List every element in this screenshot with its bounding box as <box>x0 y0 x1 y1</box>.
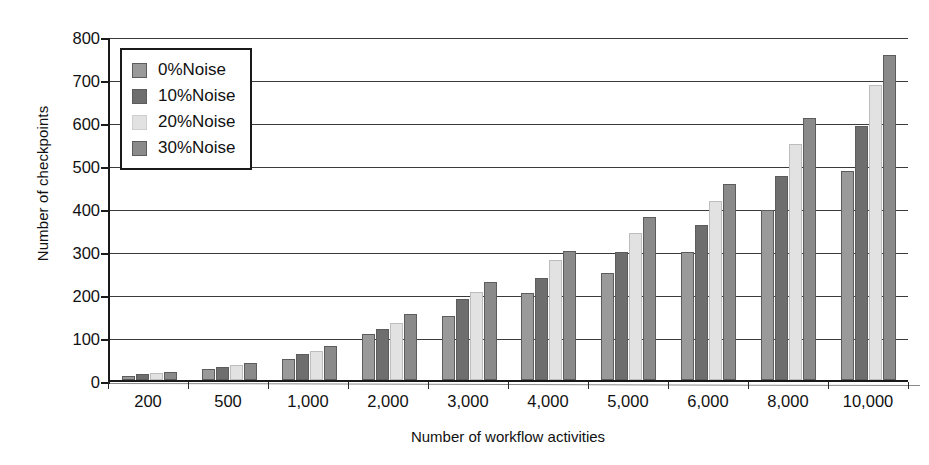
x-tick-label: 10,000 <box>828 392 908 411</box>
x-tick-mark <box>828 382 829 389</box>
legend-swatch-icon <box>132 115 147 130</box>
bar <box>376 329 389 380</box>
bar <box>164 372 177 380</box>
y-tick-label: 400 <box>72 201 100 220</box>
y-tick-mark <box>101 253 110 255</box>
x-tick-label: 8,000 <box>748 392 828 411</box>
x-tick-mark <box>908 382 909 389</box>
y-tick-label: 300 <box>72 244 100 263</box>
bar <box>629 233 642 380</box>
bar <box>723 184 736 380</box>
bar <box>549 260 562 380</box>
bar-group <box>669 38 749 380</box>
y-tick-label: 600 <box>72 115 100 134</box>
bar <box>404 314 417 380</box>
x-tick-mark <box>748 382 749 389</box>
bar <box>761 210 774 380</box>
x-axis-tick-labels: 2005001,0002,0003,0004,0005,0006,0008,00… <box>108 392 908 411</box>
legend-label: 0%Noise <box>158 60 226 80</box>
y-tick-mark <box>101 167 110 169</box>
y-tick-label: 800 <box>72 29 100 48</box>
bar <box>442 316 455 381</box>
x-tick-label: 6,000 <box>668 392 748 411</box>
bar <box>282 359 295 381</box>
x-tick-mark <box>188 382 189 389</box>
y-tick-mark <box>101 296 110 298</box>
bar <box>563 251 576 380</box>
y-axis-tick-labels: 0100200300400500600700800 <box>40 38 100 382</box>
y-tick-label: 700 <box>72 72 100 91</box>
y-tick-mark <box>101 38 110 40</box>
bar <box>230 365 243 380</box>
bar <box>601 273 614 381</box>
x-tick-mark <box>588 382 589 389</box>
y-tick-label: 100 <box>72 330 100 349</box>
bar <box>643 217 656 380</box>
bar <box>202 369 215 380</box>
legend: 0%Noise10%Noise20%Noise30%Noise <box>120 48 252 170</box>
legend-item[interactable]: 20%Noise <box>132 109 236 135</box>
bar <box>324 346 337 380</box>
bar-group <box>429 38 509 380</box>
bar <box>296 354 309 380</box>
y-tick-mark <box>101 210 110 212</box>
bar <box>695 225 708 380</box>
x-axis-ticks <box>108 382 908 390</box>
bar <box>216 367 229 380</box>
y-tick-mark <box>101 124 110 126</box>
bar-group <box>509 38 589 380</box>
bar <box>803 118 816 380</box>
bar <box>362 334 375 380</box>
bar <box>456 299 469 380</box>
bar <box>521 293 534 380</box>
bar <box>150 373 163 380</box>
bar <box>869 85 882 380</box>
x-tick-label: 500 <box>188 392 268 411</box>
y-tick-label: 500 <box>72 158 100 177</box>
x-tick-label: 3,000 <box>428 392 508 411</box>
y-tick-label: 200 <box>72 287 100 306</box>
x-tick-mark <box>428 382 429 389</box>
bar <box>390 323 403 380</box>
legend-item[interactable]: 30%Noise <box>132 135 236 161</box>
bar <box>535 278 548 380</box>
bar-group <box>349 38 429 380</box>
x-tick-mark <box>668 382 669 389</box>
legend-label: 20%Noise <box>158 112 236 132</box>
x-tick-label: 5,000 <box>588 392 668 411</box>
legend-label: 30%Noise <box>158 138 236 158</box>
x-tick-mark <box>268 382 269 389</box>
x-tick-label: 1,000 <box>268 392 348 411</box>
bar <box>484 282 497 380</box>
bar <box>681 252 694 380</box>
bar-group <box>748 38 828 380</box>
chart-figure: Number of checkpoints 010020030040050060… <box>0 0 929 465</box>
bar <box>883 55 896 380</box>
legend-label: 10%Noise <box>158 86 236 106</box>
legend-swatch-icon <box>132 63 147 78</box>
y-tick-label: 0 <box>91 373 100 392</box>
legend-item[interactable]: 0%Noise <box>132 57 236 83</box>
x-axis-title: Number of workflow activities <box>108 428 908 445</box>
bar <box>709 201 722 380</box>
bar <box>855 126 868 380</box>
bar <box>789 144 802 381</box>
y-tick-mark <box>101 339 110 341</box>
x-tick-label: 2,000 <box>348 392 428 411</box>
bar <box>775 176 788 380</box>
bar <box>244 363 257 380</box>
bar <box>615 252 628 380</box>
x-tick-mark <box>108 382 109 389</box>
x-tick-mark <box>508 382 509 389</box>
y-tick-mark <box>101 81 110 83</box>
bar <box>841 171 854 380</box>
legend-swatch-icon <box>132 89 147 104</box>
bar-group <box>828 38 908 380</box>
x-tick-label: 200 <box>108 392 188 411</box>
bar-group <box>589 38 669 380</box>
legend-swatch-icon <box>132 141 147 156</box>
bar <box>310 351 323 380</box>
x-tick-mark <box>348 382 349 389</box>
x-tick-label: 4,000 <box>508 392 588 411</box>
legend-item[interactable]: 10%Noise <box>132 83 236 109</box>
